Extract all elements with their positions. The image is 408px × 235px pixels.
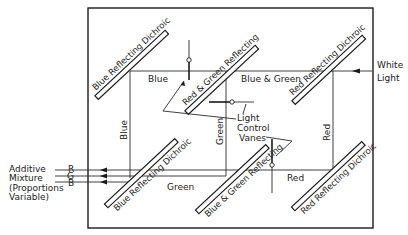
svg-text:Blue Reflecting Dichroic: Blue Reflecting Dichroic xyxy=(112,136,194,213)
label-vert-green: Green xyxy=(215,118,225,145)
label-output-4: Variable) xyxy=(9,192,49,202)
vane-middle xyxy=(209,100,254,104)
svg-text:Red Reflecting Dichroic: Red Reflecting Dichroic xyxy=(287,22,367,97)
label-vert-red: Red xyxy=(322,124,332,141)
label-bottom-red: Red xyxy=(287,173,304,183)
mirror-red-dichroic-top: Red Reflecting Dichroic xyxy=(284,22,371,105)
label-output-2: Mixture xyxy=(9,173,43,183)
mirror-blue-dichroic-top: Blue Reflecting Dichroic xyxy=(87,15,176,99)
mirror-blue-dichroic-bottom: Blue Reflecting Dichroic xyxy=(104,131,193,215)
mirror-red-dichroic-bottom: Red Reflecting Dichroic xyxy=(291,136,378,219)
label-white: White xyxy=(377,60,404,70)
label-top-blue-green: Blue & Green xyxy=(241,74,301,84)
svg-text:Red & Green Reflecting: Red & Green Reflecting xyxy=(180,32,260,108)
label-vanes-2: Control xyxy=(237,123,270,133)
label-light: Light xyxy=(377,73,400,83)
arrow-green-icon xyxy=(100,174,107,179)
arrow-red-icon xyxy=(100,168,107,173)
dichroic-light-mixer-diagram: Blue Reflecting Dichroic Red & Green Ref… xyxy=(0,0,408,235)
label-vanes-3: Vanes xyxy=(239,133,266,143)
svg-text:Red Reflecting Dichroic: Red Reflecting Dichroic xyxy=(299,141,379,216)
label-vert-blue: Blue xyxy=(119,120,129,140)
arrow-white-light-icon xyxy=(352,69,360,74)
label-top-blue: Blue xyxy=(148,74,168,84)
vane-top xyxy=(187,40,191,80)
arrow-blue-icon xyxy=(100,180,107,185)
label-bottom-green: Green xyxy=(167,182,194,192)
label-channel-b: B xyxy=(68,178,74,188)
label-vanes-1: Light xyxy=(237,113,260,123)
